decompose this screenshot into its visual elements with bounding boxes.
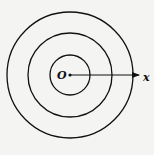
concentric-circles-diagram: O x bbox=[0, 0, 154, 155]
center-label: O bbox=[57, 69, 67, 82]
x-axis-label: x bbox=[142, 71, 150, 84]
center-point bbox=[68, 73, 71, 76]
